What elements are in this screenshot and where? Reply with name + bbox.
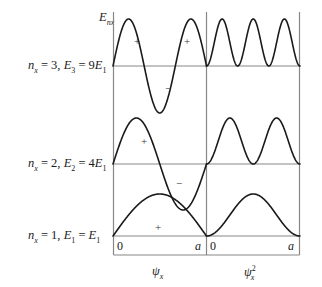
- tick-left-zero: 0: [117, 240, 123, 252]
- curve-psi-squared-n3: [207, 19, 301, 66]
- axis-name-psi-sub: x: [160, 272, 164, 281]
- axis-name-psi-symbol: ψ: [152, 264, 160, 278]
- sign-n2-lobe2: −: [176, 178, 182, 189]
- curve-psi-squared-n2: [207, 118, 301, 164]
- sign-n3-lobe2: −: [165, 83, 171, 94]
- axis-name-psi-squared: ψ2x: [244, 265, 254, 282]
- plot-svg: [0, 0, 322, 287]
- axis-name-psi-squared-sup: 2: [252, 264, 256, 273]
- tick-right-a: a: [288, 240, 294, 252]
- frame-group: [114, 12, 300, 255]
- axis-name-psi: ψx: [152, 265, 163, 281]
- sign-n1-lobe1: +: [155, 222, 161, 233]
- tick-right-zero: 0: [210, 240, 216, 252]
- sign-n3-lobe1: +: [134, 36, 140, 47]
- tick-left-a: a: [195, 240, 201, 252]
- wavefunction-figure: Enx nx = 3, E3 = 9E1 nx = 2, E2 = 4E1 nx…: [0, 0, 322, 287]
- axis-name-psi-squared-sub: x: [251, 273, 255, 282]
- curve-psi-squared-n1: [207, 194, 301, 236]
- sign-n3-lobe3: +: [184, 36, 190, 47]
- sign-n2-lobe1: +: [141, 136, 147, 147]
